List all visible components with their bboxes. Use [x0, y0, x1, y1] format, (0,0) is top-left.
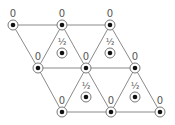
- node-label: 0: [10, 8, 16, 19]
- node-label: 0: [59, 95, 65, 106]
- node-label: 0: [83, 51, 89, 62]
- node-dot-icon: [84, 66, 89, 71]
- node-dot-icon: [84, 95, 89, 100]
- node-dot-icon: [108, 23, 113, 28]
- node-dot-icon: [60, 23, 65, 28]
- node-dot-icon: [60, 51, 65, 56]
- node-label: 0: [108, 95, 114, 106]
- half-site-node: ½: [130, 81, 140, 102]
- node-dot-icon: [60, 110, 65, 115]
- node-dot-icon: [133, 95, 138, 100]
- node-dot-icon: [108, 51, 113, 56]
- node-dot-icon: [36, 66, 41, 71]
- node-label: 0: [35, 51, 41, 62]
- node-dot-icon: [158, 110, 163, 115]
- half-label: ½: [58, 37, 67, 47]
- half-label: ½: [82, 81, 91, 91]
- lattice-half-nodes: ½½½½: [57, 37, 140, 102]
- node-dot-icon: [109, 110, 114, 115]
- lattice-node: 0: [8, 8, 18, 30]
- half-site-node: ½: [105, 37, 115, 58]
- node-label: 0: [132, 51, 138, 62]
- node-label: 0: [59, 8, 65, 19]
- half-label: ½: [131, 81, 140, 91]
- node-label: 0: [107, 8, 113, 19]
- triangular-lattice-diagram: 000000000 ½½½½: [0, 0, 175, 125]
- half-label: ½: [106, 37, 115, 47]
- half-site-node: ½: [81, 81, 91, 102]
- lattice-node: 0: [105, 8, 115, 30]
- lattice-node: 0: [57, 8, 67, 30]
- node-dot-icon: [133, 66, 138, 71]
- node-dot-icon: [11, 23, 16, 28]
- node-label: 0: [157, 95, 163, 106]
- half-site-node: ½: [57, 37, 67, 58]
